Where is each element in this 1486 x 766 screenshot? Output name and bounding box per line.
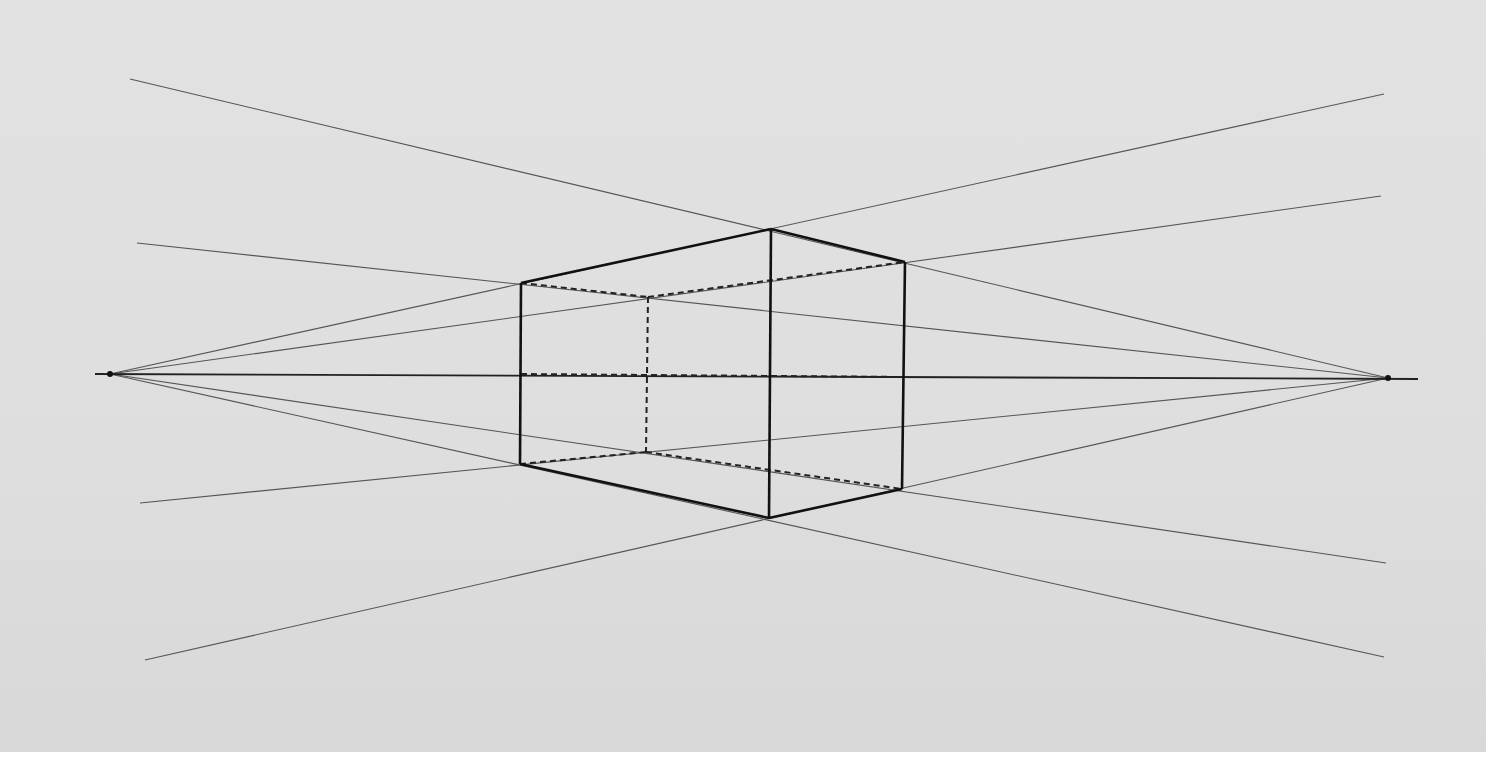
top-right-edge — [771, 229, 905, 262]
bottom-right-edge — [769, 489, 902, 518]
visible-edges — [520, 229, 905, 518]
guide-line — [140, 378, 1388, 503]
guide-line — [145, 378, 1388, 660]
perspective-drawing — [0, 0, 1486, 766]
hidden-bottom-right — [646, 452, 902, 489]
right-edge — [902, 262, 905, 489]
left-vanishing-point — [107, 371, 113, 377]
front-edge — [769, 229, 771, 518]
hidden-top-left — [521, 283, 648, 297]
guide-line — [110, 196, 1381, 374]
guide-lines — [110, 79, 1388, 660]
bottom-left-edge — [520, 464, 769, 518]
guide-line — [130, 79, 1388, 378]
guide-line — [137, 243, 1388, 378]
left-edge — [520, 283, 521, 464]
guide-line — [110, 374, 1384, 657]
guide-line — [110, 374, 1386, 563]
right-vanishing-point — [1385, 375, 1391, 381]
top-left-edge — [521, 229, 771, 283]
hidden-top-right — [648, 262, 905, 297]
